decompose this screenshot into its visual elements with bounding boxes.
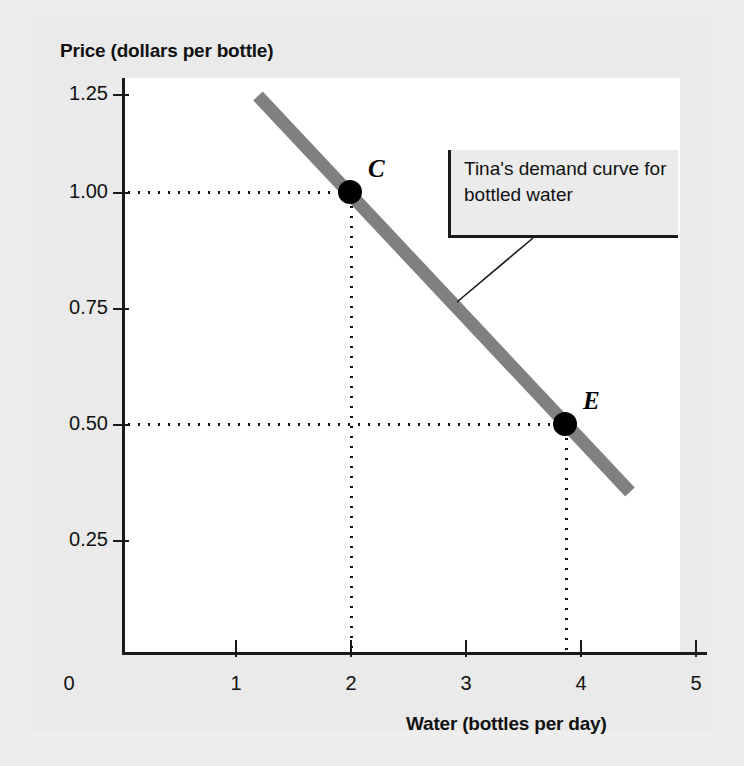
x-tick-3 — [465, 640, 467, 657]
y-tick-0-25 — [113, 540, 129, 542]
data-point-e-label: E — [583, 387, 600, 415]
y-tick-label-0-50: 0.50 — [69, 412, 108, 435]
x-tick-label-3: 3 — [446, 672, 486, 695]
x-tick-4 — [580, 640, 582, 657]
figure-root: Price (dollars per bottle) Water (bottle… — [0, 0, 744, 766]
y-tick-label-0-75: 0.75 — [69, 296, 108, 319]
x-axis-line — [122, 652, 707, 655]
guide-line-price-1-00 — [124, 191, 352, 194]
x-tick-label-2: 2 — [331, 672, 371, 695]
y-tick-0-75 — [113, 308, 129, 310]
x-tick-label-5: 5 — [676, 672, 716, 695]
data-point-e — [553, 412, 577, 436]
y-axis-title: Price (dollars per bottle) — [60, 40, 273, 62]
y-axis-line — [122, 78, 125, 655]
callout-box: Tina's demand curve for bottled water — [448, 150, 678, 238]
x-tick-label-4: 4 — [561, 672, 601, 695]
data-point-c-label: C — [368, 155, 385, 183]
y-tick-label-1-25: 1.25 — [69, 82, 108, 105]
callout-text: Tina's demand curve for bottled water — [464, 156, 670, 208]
y-tick-1-25 — [113, 94, 129, 96]
x-tick-1 — [235, 640, 237, 657]
x-tick-5 — [695, 640, 697, 657]
x-tick-label-0: 0 — [49, 672, 89, 695]
x-tick-label-1: 1 — [216, 672, 256, 695]
data-point-c — [338, 180, 362, 204]
guide-line-quantity-4 — [565, 424, 568, 654]
y-tick-label-1-00: 1.00 — [69, 180, 108, 203]
y-tick-label-0-25: 0.25 — [69, 528, 108, 551]
x-axis-title: Water (bottles per day) — [406, 713, 607, 735]
guide-line-price-0-50 — [124, 423, 567, 426]
